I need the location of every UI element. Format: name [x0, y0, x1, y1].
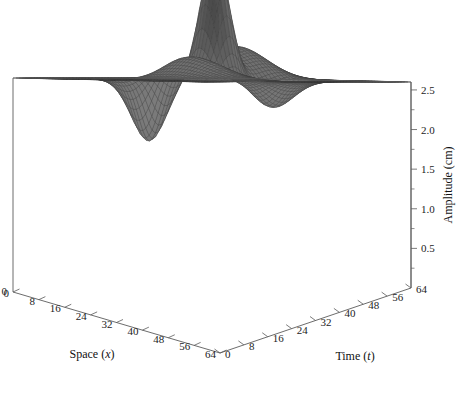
svg-text:16: 16	[50, 302, 62, 314]
svg-text:48: 48	[368, 299, 380, 311]
svg-text:2.5: 2.5	[421, 84, 435, 96]
svg-text:1.0: 1.0	[421, 203, 435, 215]
surface-mesh	[13, 0, 411, 141]
amplitude-axis-title: Amplitude (cm)	[441, 147, 455, 224]
surface-plot-figure: 081624324048566408162432404856640.51.01.…	[0, 0, 469, 418]
svg-text:24: 24	[76, 310, 88, 322]
svg-text:24: 24	[297, 324, 309, 336]
space-axis-title: Space (x)	[70, 347, 115, 361]
svg-text:32: 32	[321, 316, 332, 328]
svg-text:8: 8	[249, 340, 255, 352]
svg-text:0: 0	[2, 285, 8, 297]
svg-text:2.0: 2.0	[421, 124, 435, 136]
axis-tick-labels: 081624324048566408162432404856640.51.01.…	[2, 84, 436, 360]
time-axis-title: Time (t)	[335, 349, 374, 363]
svg-text:40: 40	[344, 307, 356, 319]
svg-text:56: 56	[179, 340, 191, 352]
svg-text:56: 56	[392, 291, 404, 303]
svg-text:8: 8	[29, 295, 35, 307]
plot-canvas: 081624324048566408162432404856640.51.01.…	[0, 0, 469, 418]
svg-text:1.5: 1.5	[421, 163, 435, 175]
svg-text:16: 16	[273, 332, 285, 344]
svg-text:48: 48	[153, 333, 165, 345]
svg-text:64: 64	[416, 283, 428, 295]
axis-ticks	[13, 90, 417, 353]
svg-text:64: 64	[205, 348, 217, 360]
svg-text:0.5: 0.5	[421, 242, 435, 254]
svg-text:32: 32	[102, 318, 113, 330]
svg-text:40: 40	[127, 325, 139, 337]
svg-text:0: 0	[225, 348, 231, 360]
